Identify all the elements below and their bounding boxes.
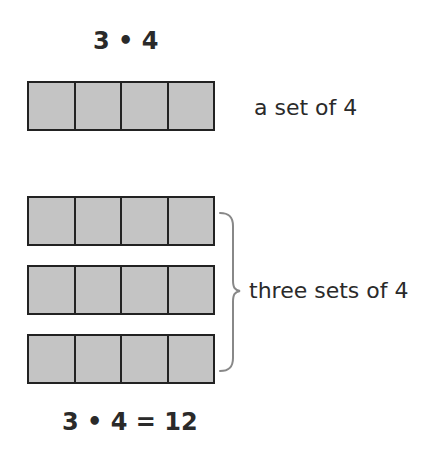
grouped-sets-label: three sets of 4 — [249, 280, 408, 302]
cell — [169, 267, 214, 313]
cell — [29, 336, 76, 382]
cell — [29, 198, 76, 244]
cell — [76, 198, 123, 244]
group-row-3 — [27, 334, 215, 384]
cell — [122, 198, 169, 244]
cell — [169, 336, 214, 382]
cell — [122, 336, 169, 382]
cell — [76, 267, 123, 313]
group-row-2 — [27, 265, 215, 315]
group-row-1 — [27, 196, 215, 246]
title-expression: 3 • 4 — [93, 29, 158, 53]
cell — [76, 336, 123, 382]
cell — [122, 267, 169, 313]
result-expression: 3 • 4 = 12 — [62, 410, 198, 434]
cell — [29, 83, 76, 129]
cell — [29, 267, 76, 313]
cell — [169, 198, 214, 244]
cell — [122, 83, 169, 129]
cell — [169, 83, 214, 129]
cell — [76, 83, 123, 129]
single-set-label: a set of 4 — [254, 97, 357, 119]
single-set-row — [27, 81, 215, 131]
curly-brace-icon — [216, 210, 246, 376]
